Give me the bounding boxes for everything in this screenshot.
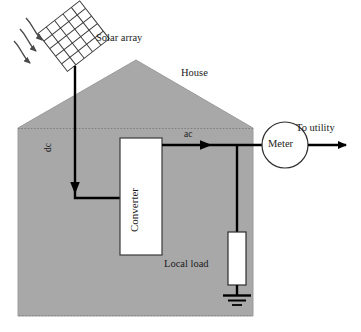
label-local-load: Local load	[164, 259, 209, 270]
label-dc: dc	[44, 143, 54, 152]
label-meter: Meter	[268, 139, 293, 150]
solar-system-diagram: Solar array House dc Converter ac Meter …	[0, 0, 361, 332]
label-to-utility: To utility	[296, 123, 335, 134]
label-ac: ac	[184, 130, 192, 140]
sunlight-arrows	[14, 18, 42, 63]
label-house: House	[181, 68, 208, 79]
local-load-resistor	[228, 232, 246, 285]
diagram-svg	[0, 0, 361, 332]
label-converter: Converter	[129, 188, 140, 232]
label-solar-array: Solar array	[96, 33, 142, 44]
converter-box	[120, 138, 162, 255]
